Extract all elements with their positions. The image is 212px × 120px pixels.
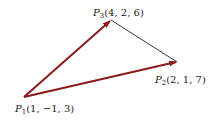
point-coords: (1, −1, 3) (26, 103, 74, 114)
label-p1: P1(1, −1, 3) (15, 104, 74, 116)
vector-p1-p3 (24, 21, 110, 97)
triangle-vector-diagram: P3(4, 2, 6) P2(2, 1, 7) P1(1, −1, 3) (0, 0, 212, 120)
vector-p1-p2 (24, 62, 176, 97)
point-name: P (15, 103, 22, 114)
point-name: P (93, 7, 100, 18)
point-name: P (155, 74, 162, 85)
edge-p3-p2 (111, 20, 177, 62)
label-p3: P3(4, 2, 6) (93, 8, 144, 20)
point-coords: (4, 2, 6) (104, 7, 144, 18)
point-coords: (2, 1, 7) (166, 74, 206, 85)
label-p2: P2(2, 1, 7) (155, 75, 206, 87)
